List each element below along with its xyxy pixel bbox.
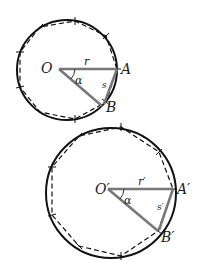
label-s: s — [102, 80, 107, 90]
label-o: O — [41, 60, 53, 76]
label-r-prime: r′ — [138, 175, 146, 188]
similar-circles-diagram: O r α s A B O′ r′ α s′ A′ B′ — [0, 0, 199, 274]
label-b-prime: B′ — [160, 229, 175, 245]
label-r: r — [84, 55, 90, 68]
label-b: B — [105, 99, 116, 115]
small-circle-figure: O r α s A B — [16, 17, 131, 123]
label-a: A — [119, 61, 131, 77]
label-alpha-2: α — [124, 194, 132, 207]
label-s-prime: s′ — [157, 202, 164, 212]
large-circle-figure: O′ r′ α s′ A′ B′ — [46, 123, 191, 260]
label-alpha: α — [75, 74, 83, 87]
label-a-prime: A′ — [175, 181, 191, 197]
label-o-prime: O′ — [95, 181, 110, 197]
large-radius-ob — [108, 189, 158, 231]
